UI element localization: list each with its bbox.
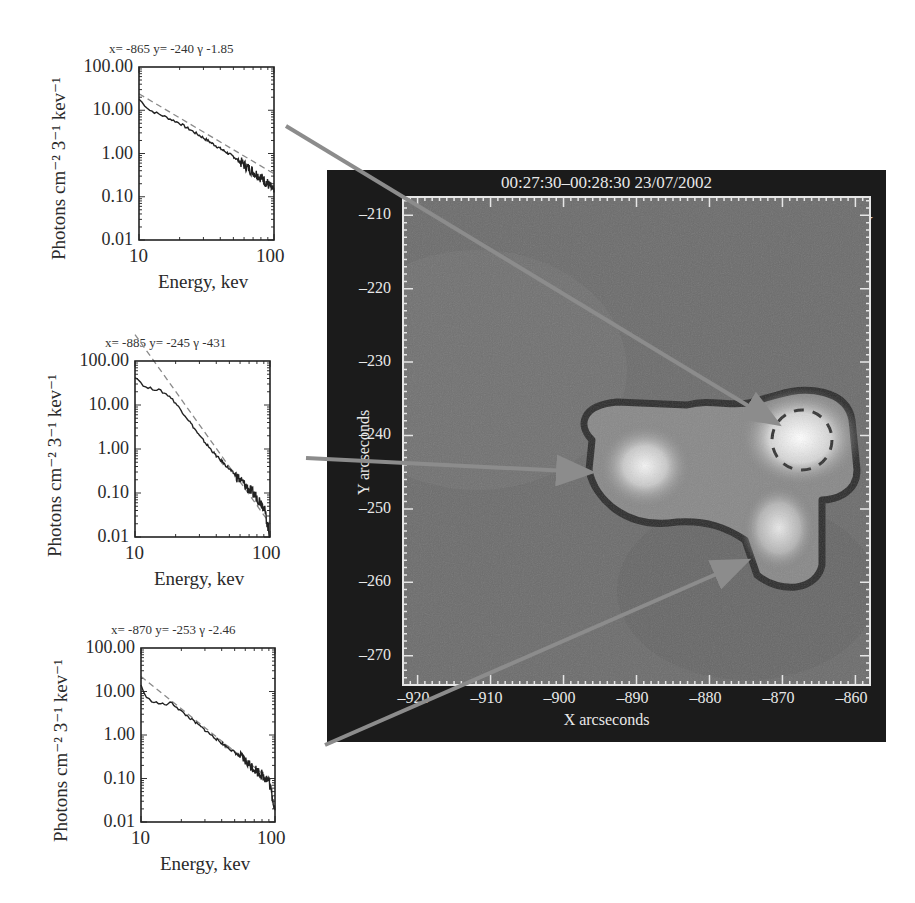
- spectrum-y-tick: 0.01: [49, 527, 129, 545]
- spectrum-y-tick: 0.01: [55, 812, 135, 830]
- hxr-image-plot: [327, 170, 886, 742]
- spectrum-y-tick: 1.00: [55, 725, 135, 743]
- observed-spectrum-line: [135, 378, 270, 537]
- spectrum-y-tick: 1.00: [53, 144, 133, 162]
- spectrum-y-tick: 0.10: [53, 187, 133, 205]
- spectrum-x-tick: 10: [125, 543, 144, 562]
- spectrum-title-3: x= -870 y= -253 γ -2.46: [111, 622, 235, 638]
- spectrum-y-tick: 10.00: [53, 100, 133, 118]
- spectrum-y-tick: 0.01: [53, 230, 133, 248]
- spectrum-y-tick: 0.10: [55, 769, 135, 787]
- spectrum-plot-1: [139, 67, 274, 240]
- spectrum-title-1: x= -865 y= -240 γ -1.85: [109, 41, 233, 57]
- spectrum-plot-3: [141, 648, 275, 822]
- spectrum-y-tick: 0.10: [49, 483, 129, 501]
- spectrum-plot-2: [135, 361, 270, 537]
- spectrum-x-tick: 100: [256, 246, 285, 265]
- spectrum-y-tick: 100.00: [49, 351, 129, 369]
- power-law-fit-line: [141, 677, 275, 784]
- spectrum-x-tick: 10: [129, 246, 148, 265]
- observed-spectrum-line: [139, 99, 274, 192]
- spectrum-y-tick: 10.00: [49, 395, 129, 413]
- spectrum-x-tick: 10: [131, 828, 150, 847]
- power-law-fit-line: [139, 94, 274, 174]
- observed-spectrum-line: [141, 685, 275, 810]
- spectrum-x-tick: 100: [257, 828, 286, 847]
- spectrum-y-tick: 100.00: [55, 638, 135, 656]
- power-law-fit-line: [135, 335, 270, 524]
- spectrum-x-axis-label-1: Energy, kev: [158, 271, 248, 293]
- spectrum-y-tick: 10.00: [55, 682, 135, 700]
- spectrum-title-2: x= -885 y= -245 γ -431: [105, 335, 226, 351]
- spectrum-x-axis-label-2: Energy, kev: [154, 568, 244, 590]
- spectrum-y-tick: 100.00: [53, 57, 133, 75]
- hxr-image-frame: 00:27:30–00:28:30 23/07/2002 029–030keV …: [327, 170, 886, 742]
- spectrum-x-tick: 100: [252, 543, 281, 562]
- spectrum-x-axis-label-3: Energy, kev: [160, 853, 250, 875]
- spectrum-y-tick: 1.00: [49, 439, 129, 457]
